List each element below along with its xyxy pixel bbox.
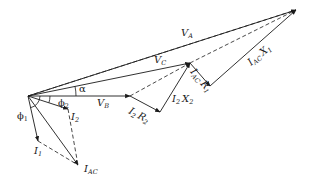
label-I2: I2 [70,111,79,124]
label-VB: VB [97,97,109,110]
label-alpha: α [79,83,86,94]
dashed-I1-to-IAC [38,141,78,165]
dashed-VB-to-VC [130,63,190,96]
label-phi1: ϕ1 [17,110,28,123]
label-I2X2: I2X2 [171,93,193,106]
label-phi2: ϕ2 [58,97,69,110]
label-IACR1: IACR1 [186,65,214,95]
phasor-IACX1 [210,10,296,86]
dashed-VC-to-VA [190,10,296,63]
phasor-diagram: VA VC VB α ϕ2 ϕ1 I2 I1 IAC I2R2 I2X2 IAC… [0,0,313,184]
label-IAC: IAC [83,163,98,176]
alpha-arc [75,86,76,96]
phi2-arc [49,96,50,103]
label-I2R2: I2R2 [125,105,151,127]
label-IACX1: IACX1 [244,42,274,70]
label-VC: VC [154,54,166,67]
phasor-VC [28,63,190,96]
label-I1: I1 [33,145,42,158]
label-VA: VA [181,27,193,40]
phasor-I2R2 [130,96,160,112]
